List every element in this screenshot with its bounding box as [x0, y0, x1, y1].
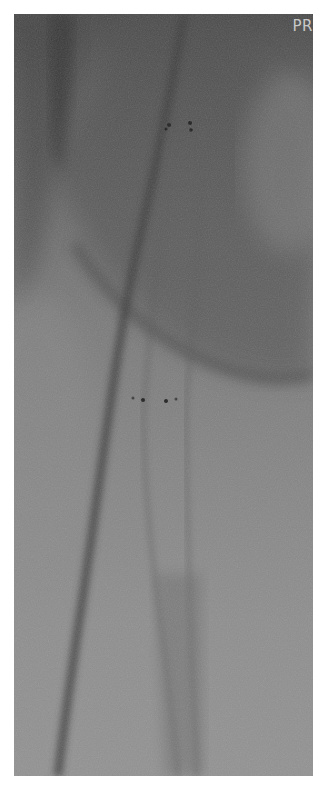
noise-texture	[14, 14, 313, 776]
xray-image: PR	[14, 14, 313, 776]
orientation-label: PR	[293, 17, 313, 35]
xray-anatomy-overlay	[14, 14, 313, 776]
bottom-border	[14, 776, 313, 790]
